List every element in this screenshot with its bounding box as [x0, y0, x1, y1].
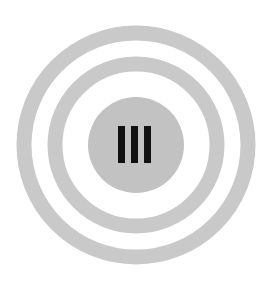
- bar-1: [118, 126, 125, 163]
- bar-3: [144, 126, 151, 163]
- center-bars-glyph: [118, 126, 151, 163]
- concentric-rings-target-icon: [0, 0, 274, 286]
- bar-2: [131, 126, 138, 163]
- icon-canvas: [0, 0, 274, 286]
